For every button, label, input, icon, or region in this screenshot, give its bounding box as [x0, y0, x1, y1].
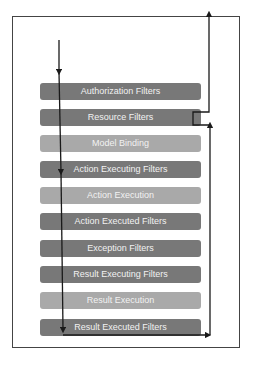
- stage-result-execution: Result Execution: [40, 292, 201, 309]
- stage-action-executing-filters: Action Executing Filters: [40, 161, 201, 178]
- stage-action-executed-filters: Action Executed Filters: [40, 213, 201, 230]
- stage-authorization-filters: Authorization Filters: [40, 83, 201, 100]
- stage-resource-filters: Resource Filters: [40, 109, 201, 126]
- stage-exception-filters: Exception Filters: [40, 240, 201, 257]
- stage-result-executing-filters: Result Executing Filters: [40, 266, 201, 283]
- stage-result-executed-filters: Result Executed Filters: [40, 319, 201, 336]
- stage-action-execution: Action Execution: [40, 187, 201, 204]
- stage-model-binding: Model Binding: [40, 135, 201, 152]
